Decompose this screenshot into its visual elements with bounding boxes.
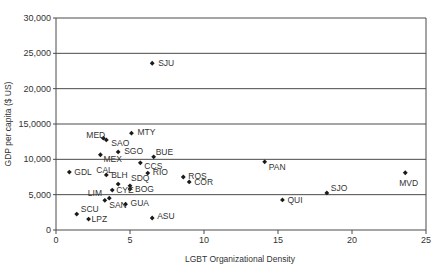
y-tick-label: 10,000 — [23, 154, 51, 164]
point-label: LIM — [88, 188, 102, 198]
y-tick-label: 30,000 — [23, 13, 51, 23]
x-tick-label: 25 — [421, 235, 431, 245]
diamond-marker-icon — [150, 61, 155, 66]
data-point-san: SAN — [107, 196, 127, 210]
x-tick-label: 15 — [273, 235, 283, 245]
point-label: SJU — [158, 58, 174, 68]
data-point-bue: BUE — [151, 147, 173, 159]
diamond-marker-icon — [262, 159, 267, 164]
point-label: QUI — [287, 195, 302, 205]
data-point-blh: BLH — [111, 170, 128, 186]
data-point-mex: MEX — [98, 152, 122, 163]
data-points: SJUMTYMEDSAOSGOMEXBUECCSPANGDLCALRIOROSC… — [67, 58, 418, 224]
y-tick-label: 15,0000 — [18, 119, 51, 129]
x-tick-label: 0 — [53, 235, 58, 245]
diamond-marker-icon — [150, 216, 155, 221]
diamond-marker-icon — [110, 188, 115, 193]
data-point-med: MED — [86, 130, 105, 140]
x-tick-label: 5 — [127, 235, 132, 245]
diamond-marker-icon — [86, 217, 91, 222]
data-point-gua: GUA — [123, 198, 149, 208]
y-tick-label: 20,000 — [23, 84, 51, 94]
point-label: MEX — [103, 154, 122, 164]
point-label: SGO — [124, 146, 143, 156]
data-point-lpz: LPZ — [86, 214, 107, 224]
point-label: MTY — [137, 127, 155, 137]
diamond-marker-icon — [403, 170, 408, 175]
data-point-pan: PAN — [262, 159, 285, 171]
data-point-sjo: SJO — [324, 183, 347, 195]
x-axis-ticks: 0510152025 — [53, 230, 431, 245]
data-point-lim: LIM — [88, 188, 107, 202]
point-label: BUE — [156, 147, 174, 157]
data-point-asu: ASU — [150, 211, 175, 221]
scatter-chart: 05,00010,00015,000020,00025,00030,000 05… — [0, 0, 438, 272]
point-label: GUA — [131, 198, 150, 208]
point-label: SDQ — [131, 173, 150, 183]
point-label: BLH — [111, 170, 128, 180]
diamond-marker-icon — [181, 175, 186, 180]
data-point-gdl: GDL — [67, 167, 92, 177]
point-label: ASU — [157, 211, 174, 221]
data-point-cye: CYE — [110, 185, 134, 195]
diamond-marker-icon — [138, 160, 143, 165]
diamond-marker-icon — [98, 152, 103, 157]
data-point-qui: QUI — [280, 195, 303, 205]
y-axis-ticks: 05,00010,00015,000020,00025,00030,000 — [18, 13, 56, 235]
y-tick-label: 0 — [46, 225, 51, 235]
point-label: COR — [194, 177, 213, 187]
y-axis-title: GDP per capita ($ US) — [3, 81, 13, 166]
x-tick-label: 10 — [199, 235, 209, 245]
point-label: SJO — [331, 183, 348, 193]
diamond-marker-icon — [67, 170, 72, 175]
y-tick-label: 25,000 — [23, 48, 51, 58]
point-label: MED — [86, 130, 105, 140]
point-label: SCU — [81, 204, 99, 214]
x-tick-label: 20 — [347, 235, 357, 245]
point-label: RIO — [153, 167, 169, 177]
y-tick-label: 5,000 — [28, 190, 51, 200]
diamond-marker-icon — [129, 131, 134, 136]
point-label: LPZ — [92, 214, 108, 224]
point-label: SAN — [109, 200, 126, 210]
data-point-mvd: MVD — [399, 170, 418, 187]
data-point-sju: SJU — [150, 58, 174, 68]
x-axis-title: LGBT Organizational Density — [185, 254, 296, 264]
point-label: BOG — [135, 184, 154, 194]
diamond-marker-icon — [74, 212, 79, 217]
point-label: PAN — [269, 162, 286, 172]
data-point-mty: MTY — [129, 127, 156, 137]
point-label: GDL — [74, 167, 92, 177]
point-label: CYE — [116, 185, 134, 195]
diamond-marker-icon — [102, 198, 107, 203]
point-label: MVD — [399, 178, 418, 188]
diamond-marker-icon — [280, 198, 285, 203]
